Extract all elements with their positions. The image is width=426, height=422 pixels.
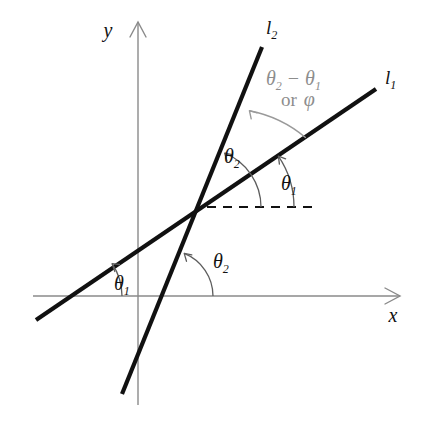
theta-symbol: θ	[213, 250, 223, 272]
phi-alt-phi-symbol: φ	[304, 88, 315, 111]
theta-symbol: θ	[224, 145, 234, 167]
y-axis-label: y	[102, 19, 113, 42]
phi-expr-theta1: θ	[305, 67, 315, 89]
phi-expr-theta2: θ	[266, 67, 276, 89]
phi-expr-minus-sign: −	[288, 67, 299, 89]
angle-label-theta2-intersection: θ2	[224, 145, 240, 171]
axes-group	[33, 22, 400, 405]
angle-label-theta2-x-axis: θ2	[213, 250, 229, 276]
phi-expr-theta1-subscript: 1	[315, 79, 321, 93]
line-l1-label: l1	[385, 67, 396, 92]
angle-label-theta1-intersection: θ1	[281, 172, 297, 198]
x-axis-label: x	[388, 304, 398, 326]
theta-symbol: θ	[281, 172, 291, 194]
geometry-diagram: x y l1 l2 θ1 θ2	[0, 0, 426, 422]
line-l1	[36, 89, 376, 320]
angle-label-phi-alternative: orφ	[281, 88, 315, 111]
theta-subscript: 1	[124, 284, 130, 298]
line-l1-label-subscript: 1	[390, 78, 396, 92]
theta-subscript: 2	[234, 157, 240, 171]
arc-theta2-x-axis	[184, 253, 213, 296]
phi-alt-or-word: or	[281, 89, 298, 110]
figure-canvas: x y l1 l2 θ1 θ2	[0, 0, 426, 422]
line-l2-label: l2	[266, 17, 277, 42]
theta-symbol: θ	[114, 272, 124, 294]
line-l2	[122, 47, 262, 394]
arc-phi-between-lines	[249, 111, 305, 138]
theta-subscript: 1	[291, 184, 297, 198]
theta-subscript: 2	[223, 262, 229, 276]
line-l2-label-subscript: 2	[271, 28, 277, 42]
